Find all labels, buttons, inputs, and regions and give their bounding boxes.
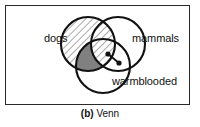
element-dot-1 (105, 51, 110, 56)
venn-diagram: dogs mammals warmblooded (6, 6, 191, 106)
figure-caption: (b) Venn (0, 108, 200, 119)
caption-tag: (b) (81, 108, 94, 119)
set-label-warmblooded: warmblooded (111, 75, 177, 87)
caption-text: Venn (96, 108, 119, 119)
element-dot-2 (116, 60, 121, 65)
venn-figure: dogs mammals warmblooded (b) Venn (0, 0, 200, 127)
set-label-mammals: mammals (132, 32, 180, 44)
set-label-dogs: dogs (44, 32, 68, 44)
figure-frame: dogs mammals warmblooded (5, 5, 190, 105)
